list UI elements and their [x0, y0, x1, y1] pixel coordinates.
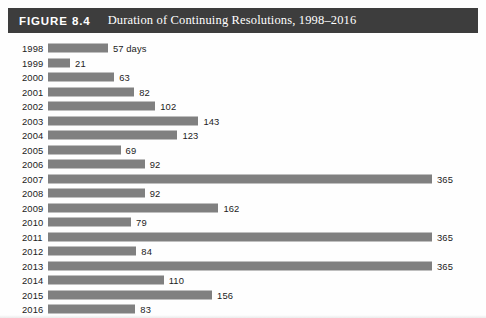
figure-title: Duration of Continuing Resolutions, 1998… — [108, 13, 357, 28]
row-year-label: 2004 — [22, 130, 43, 141]
bar-value-label: 365 — [437, 260, 453, 271]
chart-row: 2003143 — [0, 114, 486, 129]
row-bar-group: 143 — [48, 116, 219, 125]
row-year-label: 2010 — [22, 217, 43, 228]
figure-header-band: FIGURE 8.4 Duration of Continuing Resolu… — [8, 8, 478, 33]
row-bar-group: 365 — [48, 174, 453, 183]
bar — [48, 203, 218, 212]
chart-row: 2002102 — [0, 99, 486, 114]
figure-number-label: FIGURE 8.4 — [19, 15, 91, 27]
bar-value-label: 143 — [203, 115, 219, 126]
chart-row: 2004123 — [0, 128, 486, 143]
row-bar-group: 69 — [48, 145, 136, 154]
chart-row: 200892 — [0, 186, 486, 201]
bar-value-label: 79 — [136, 217, 147, 228]
bar-value-label: 82 — [139, 86, 150, 97]
row-bar-group: 83 — [48, 305, 151, 314]
row-bar-group: 110 — [48, 276, 184, 285]
bar — [48, 44, 108, 53]
row-bar-group: 84 — [48, 247, 152, 256]
bar — [48, 116, 198, 125]
bar — [48, 218, 131, 227]
row-year-label: 2009 — [22, 202, 43, 213]
chart-row: 201079 — [0, 215, 486, 230]
figure-container: FIGURE 8.4 Duration of Continuing Resolu… — [0, 0, 486, 318]
bar-value-label: 365 — [437, 231, 453, 242]
bar-value-label: 57 days — [113, 43, 147, 54]
row-bar-group: 123 — [48, 131, 198, 140]
row-year-label: 2003 — [22, 115, 43, 126]
row-bar-group: 92 — [48, 160, 160, 169]
bar — [48, 131, 177, 140]
row-bar-group: 102 — [48, 102, 176, 111]
chart-row: 2011365 — [0, 230, 486, 245]
row-year-label: 2000 — [22, 72, 43, 83]
bar — [48, 102, 155, 111]
chart-row: 2013365 — [0, 259, 486, 274]
chart-row: 200569 — [0, 143, 486, 158]
row-year-label: 2011 — [22, 231, 43, 242]
bar-value-label: 69 — [126, 144, 137, 155]
chart-row: 2009162 — [0, 201, 486, 216]
row-year-label: 2006 — [22, 159, 43, 170]
row-bar-group: 63 — [48, 73, 130, 82]
bar-value-label: 110 — [169, 275, 184, 286]
chart-row: 199921 — [0, 56, 486, 71]
row-year-label: 2005 — [22, 144, 43, 155]
bar — [48, 232, 432, 241]
row-year-label: 2008 — [22, 188, 43, 199]
bar — [48, 189, 145, 198]
bar-value-label: 83 — [140, 304, 151, 315]
bar — [48, 290, 212, 299]
bar-value-label: 123 — [182, 130, 198, 141]
bar-value-label: 84 — [141, 246, 152, 257]
row-bar-group: 365 — [48, 261, 453, 270]
bar — [48, 145, 121, 154]
row-year-label: 2013 — [22, 260, 43, 271]
row-year-label: 2002 — [22, 101, 43, 112]
row-year-label: 2014 — [22, 275, 43, 286]
bar — [48, 276, 164, 285]
bar — [48, 247, 136, 256]
chart-row: 200182 — [0, 85, 486, 100]
chart-row: 2007365 — [0, 172, 486, 187]
bar-value-label: 21 — [75, 57, 86, 68]
row-bar-group: 162 — [48, 203, 239, 212]
chart-row: 2014110 — [0, 273, 486, 288]
bar — [48, 58, 70, 67]
chart-row: 200063 — [0, 70, 486, 85]
bar-value-label: 102 — [160, 101, 176, 112]
row-year-label: 2015 — [22, 289, 43, 300]
bar-value-label: 92 — [150, 188, 161, 199]
row-year-label: 1999 — [22, 57, 43, 68]
row-year-label: 2016 — [22, 304, 43, 315]
row-year-label: 2001 — [22, 86, 43, 97]
bar-value-label: 156 — [217, 289, 233, 300]
bar — [48, 160, 145, 169]
bar-chart-plot: 199857 days19992120006320018220021022003… — [0, 41, 486, 317]
bar-value-label: 63 — [119, 72, 130, 83]
row-bar-group: 57 days — [48, 44, 147, 53]
row-year-label: 1998 — [22, 43, 43, 54]
bar — [48, 73, 114, 82]
bar-value-label: 92 — [150, 159, 161, 170]
row-year-label: 2012 — [22, 246, 43, 257]
row-bar-group: 365 — [48, 232, 453, 241]
bar — [48, 261, 432, 270]
chart-row: 2015156 — [0, 288, 486, 303]
row-bar-group: 156 — [48, 290, 233, 299]
row-bar-group: 21 — [48, 58, 86, 67]
row-bar-group: 92 — [48, 189, 160, 198]
row-bar-group: 82 — [48, 87, 150, 96]
bar-value-label: 365 — [437, 173, 453, 184]
bar — [48, 174, 432, 183]
chart-row: 199857 days — [0, 41, 486, 56]
chart-row: 200692 — [0, 157, 486, 172]
bar — [48, 305, 135, 314]
chart-row: 201284 — [0, 244, 486, 259]
bar — [48, 87, 134, 96]
row-bar-group: 79 — [48, 218, 147, 227]
bar-value-label: 162 — [223, 202, 239, 213]
row-year-label: 2007 — [22, 173, 43, 184]
